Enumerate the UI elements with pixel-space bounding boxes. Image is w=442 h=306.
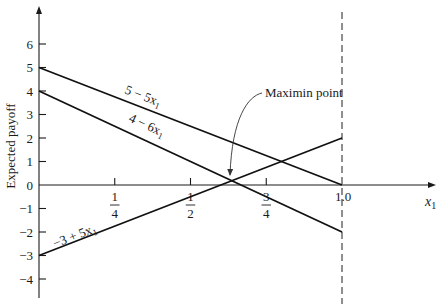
x-tick-label-one: 1.0 — [335, 189, 351, 204]
y-tick-label: −1 — [19, 201, 33, 216]
svg-text:4: 4 — [263, 206, 270, 221]
x-axis-label: x1 — [424, 194, 436, 211]
y-tick-label: 1 — [27, 154, 34, 169]
y-ticks — [39, 44, 46, 279]
payoff-chart: 6 5 4 3 2 1 0 −1 −2 −3 −4 1 4 1 2 3 4 — [0, 0, 442, 306]
maximin-arrow — [230, 93, 262, 175]
x-tick-label-three-quarters: 3 4 — [262, 189, 272, 221]
x-tick-label-half: 1 2 — [186, 189, 196, 221]
x-ticks — [115, 178, 267, 185]
maximin-annotation-label: Maximin point — [265, 85, 343, 100]
y-tick-label: 0 — [27, 178, 34, 193]
y-tick-labels: 6 5 4 3 2 1 0 −1 −2 −3 −4 — [19, 37, 33, 287]
y-tick-label: −3 — [19, 248, 33, 263]
y-tick-label: 4 — [27, 84, 34, 99]
y-tick-label: 5 — [27, 60, 34, 75]
y-tick-label: −4 — [19, 272, 33, 287]
x-tick-label-quarter: 1 4 — [110, 189, 120, 221]
svg-text:1: 1 — [112, 189, 119, 204]
y-tick-label: 2 — [27, 131, 34, 146]
x-tick-labels: 1 4 1 2 3 4 1.0 — [110, 189, 351, 221]
svg-text:2: 2 — [187, 206, 194, 221]
y-tick-label: 6 — [27, 37, 34, 52]
series-label-minus-3-plus-5x1: −3 + 5x1 — [51, 220, 99, 252]
svg-text:4: 4 — [112, 206, 119, 221]
y-axis-label: Expected payoff — [3, 103, 18, 189]
y-tick-label: −2 — [19, 225, 33, 240]
y-tick-label: 3 — [27, 107, 34, 122]
